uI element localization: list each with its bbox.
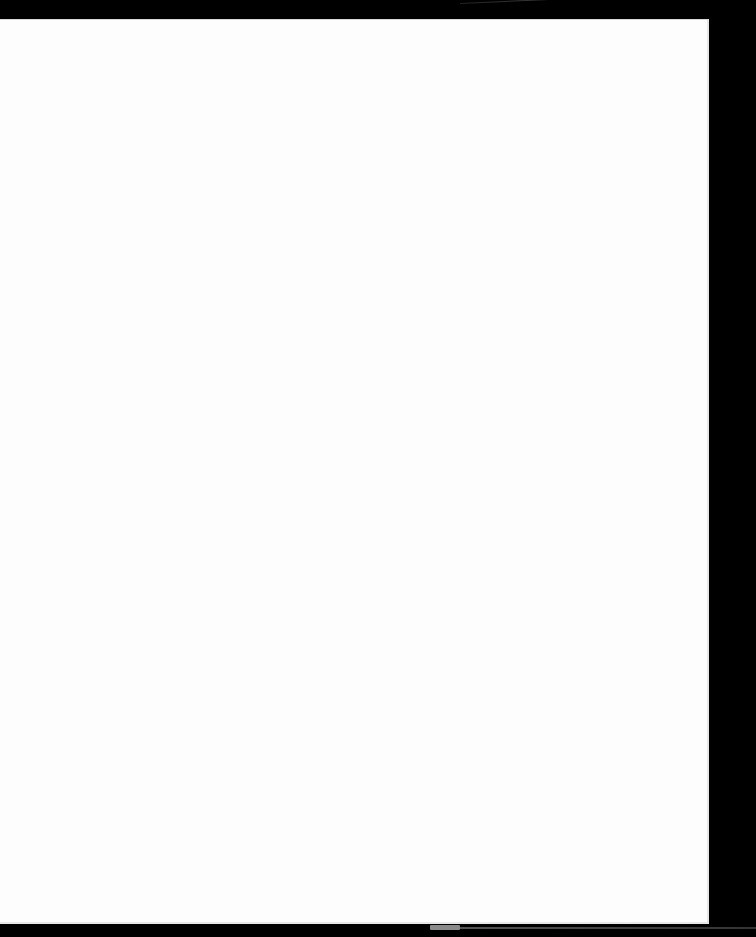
- paper-edge-line: [460, 0, 756, 4]
- paper-clip: [430, 925, 460, 930]
- paper-shadow-edge: [460, 927, 756, 929]
- blank-paper-sheet: [0, 19, 709, 924]
